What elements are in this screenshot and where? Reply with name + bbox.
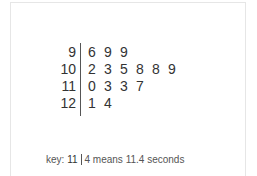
leaf-value: 1 bbox=[88, 95, 104, 111]
stem-leaf-divider bbox=[80, 43, 81, 116]
leaf-value: 5 bbox=[120, 61, 136, 77]
key-label: key: bbox=[46, 154, 64, 165]
key-stem: 11 bbox=[67, 154, 77, 165]
leaf-value: 4 bbox=[104, 95, 120, 111]
stem-value: 10 bbox=[52, 61, 76, 77]
leaf-value: 3 bbox=[104, 78, 120, 94]
leaf-value: 8 bbox=[136, 61, 152, 77]
leaf-list: 1 4 bbox=[88, 95, 120, 111]
stem-value: 11 bbox=[52, 78, 76, 94]
plot-key: key: 114 means 11.4 seconds bbox=[46, 154, 184, 165]
leaf-list: 6 9 9 bbox=[88, 44, 136, 60]
leaf-list: 0 3 3 7 bbox=[88, 78, 152, 94]
stem-value: 12 bbox=[52, 95, 76, 111]
leaf-value: 9 bbox=[120, 44, 136, 60]
leaf-value: 9 bbox=[168, 61, 184, 77]
leaf-value: 2 bbox=[88, 61, 104, 77]
leaf-value: 9 bbox=[104, 44, 120, 60]
leaf-value: 3 bbox=[120, 78, 136, 94]
leaf-value: 8 bbox=[152, 61, 168, 77]
key-explanation: means 11.4 seconds bbox=[93, 154, 185, 165]
leaf-value: 0 bbox=[88, 78, 104, 94]
leaf-value: 3 bbox=[104, 61, 120, 77]
key-divider bbox=[81, 154, 82, 165]
leaf-value: 7 bbox=[136, 78, 152, 94]
leaf-list: 2 3 5 8 8 9 bbox=[88, 61, 184, 77]
key-leaf: 4 bbox=[85, 154, 91, 165]
stem-value: 9 bbox=[52, 44, 76, 60]
leaf-value: 6 bbox=[88, 44, 104, 60]
